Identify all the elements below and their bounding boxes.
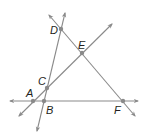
geometry-diagram: ABCDEF [0,0,146,136]
label-f: F [114,104,122,116]
point-d [59,27,63,31]
point-a [31,99,35,103]
label-a: A [25,87,33,99]
label-d: D [50,24,58,36]
point-f [121,99,125,103]
label-c: C [38,75,46,87]
label-e: E [78,39,86,51]
label-b: B [46,104,53,116]
labels-group: ABCDEF [25,24,122,116]
point-b [42,99,46,103]
point-e [80,51,84,55]
